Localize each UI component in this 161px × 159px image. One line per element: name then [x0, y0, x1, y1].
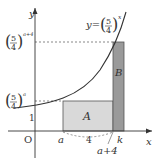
top-num: 5	[11, 34, 16, 43]
top-den: 4	[11, 43, 16, 52]
width-label: 4	[86, 135, 92, 145]
x-label-a-plus-4: a+4	[97, 145, 118, 156]
x-arrow	[146, 129, 152, 134]
x-label-k: k	[117, 134, 123, 145]
exponential-area-diagram: y x O 1 a k 4 a+4 A B y= ( 5 4 ) x ( 5 4…	[0, 0, 161, 159]
curve-den: 4	[106, 26, 111, 35]
x-label-a: a	[58, 134, 64, 145]
region-a-label: A	[82, 110, 91, 123]
origin-label: O	[24, 134, 32, 145]
curve-num: 5	[106, 17, 111, 26]
diagram-svg: y x O 1 a k 4 a+4 A B y= ( 5 4 ) x ( 5 4…	[0, 0, 161, 159]
mid-exp: a	[23, 91, 26, 97]
a4-pointer	[108, 132, 113, 144]
y-tick-1: 1	[29, 113, 35, 123]
region-b-label: B	[114, 67, 122, 78]
top-exp: a+4	[23, 31, 33, 37]
mid-num: 5	[11, 93, 16, 102]
mid-den: 4	[11, 102, 16, 111]
x-axis-label: x	[146, 136, 152, 147]
curve-exp: x	[118, 13, 122, 20]
region-b	[113, 42, 124, 131]
y-axis-label: y	[28, 8, 35, 19]
curve-label-y: y=	[85, 19, 100, 30]
